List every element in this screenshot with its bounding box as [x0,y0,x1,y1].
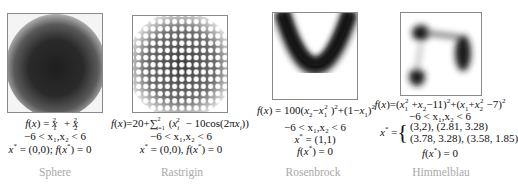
sphere-domain: −6 < x₁,x₂ < 6 [24,130,86,142]
himmelblau-optimum: x* = { (3,2), (2.81, 3.28) (3.78, 3.28),… [380,120,518,144]
sphere-label: Sphere [39,166,71,178]
rastrigin-domain: −6 < x₁,x₂ < 6 [150,130,212,142]
rosenbrock-formula: f(x) = 100(x2−x12)2+(1−x1)2 [257,104,375,116]
rastrigin-optimum: x* = (0,0), f(x*) = 0 [140,143,223,155]
himmelblau-optimum-row1: (3,2), (2.81, 3.28) [410,120,518,132]
sphere-formula: f(x) = x12+ x22 [25,117,85,129]
rosenbrock-heatmap [272,12,358,100]
rastrigin-label: Rastrigin [161,166,203,178]
rosenbrock-optimum-f: f(x*) = 0 [297,145,333,157]
himmelblau-label: Himmelblau [412,166,470,178]
rastrigin-formula: f(x)=20+∑2i=1(xi2 − 10cos(2πxi)) [111,117,249,129]
himmelblau-optimum-row2: (3.78, 3.28), (3.58, 1.85) [410,132,518,144]
sphere-heatmap [7,13,103,113]
himmelblau-formula: f(x)=(x12+x2−11)2+(x1+x22−7)2 [375,98,506,110]
rosenbrock-optimum-x: x* = (1,1) [294,133,335,145]
left-brace: { [397,121,408,143]
sphere-optimum: x* = (0,0); f(x*) = 0 [9,143,92,155]
rosenbrock-label: Rosenbrock [286,166,341,178]
rastrigin-heatmap [132,15,228,113]
himmelblau-heatmap [400,12,482,96]
himmelblau-optimum-f: f(x*) = 0 [422,147,458,159]
rosenbrock-domain: −6 < x₁,x₂ < 6 [284,121,346,133]
